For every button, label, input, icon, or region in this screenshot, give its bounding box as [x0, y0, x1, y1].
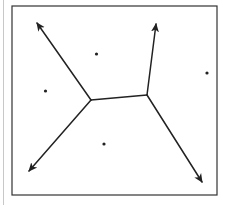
site-left-dot	[44, 89, 47, 92]
site-bottom-dot	[102, 142, 105, 145]
edges-group	[29, 23, 202, 182]
ray-bottom-left	[29, 100, 91, 171]
ray-top-left	[37, 23, 91, 100]
voronoi-diagram	[0, 0, 225, 205]
site-right-dot	[205, 71, 208, 74]
diagram-frame	[12, 6, 217, 195]
edge-middle	[91, 95, 147, 100]
sites-group	[44, 52, 209, 145]
site-top-dot	[95, 52, 98, 55]
ray-bottom-right	[147, 95, 202, 182]
ray-top-right	[147, 24, 156, 95]
